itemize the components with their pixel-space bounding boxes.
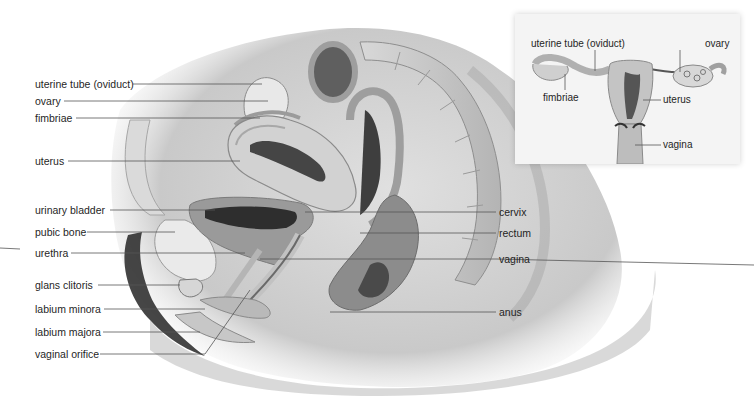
label-uterus: uterus xyxy=(35,155,64,167)
label-glans-clitoris: glans clitoris xyxy=(35,279,93,291)
label-vaginal-orifice: vaginal orifice xyxy=(35,348,99,360)
label-anus: anus xyxy=(499,306,522,318)
label-urinary-bladder: urinary bladder xyxy=(35,204,105,216)
label-pubic-bone: pubic bone xyxy=(35,226,86,238)
inset-label-ovary: ovary xyxy=(705,38,729,50)
label-rectum: rectum xyxy=(499,227,531,239)
label-ovary: ovary xyxy=(35,95,61,107)
label-uterine-tube: uterine tube (oviduct) xyxy=(35,78,134,90)
inset-label-vagina: vagina xyxy=(663,139,692,151)
label-cervix: cervix xyxy=(499,206,526,218)
inset-label-uterus: uterus xyxy=(663,94,691,106)
inset-label-fimbriae: fimbriae xyxy=(543,92,579,104)
label-labium-minora: labium minora xyxy=(35,303,101,315)
label-vagina: vagina xyxy=(499,253,530,265)
label-urethra: urethra xyxy=(35,247,68,259)
inset-illustration xyxy=(515,14,740,164)
inset-label-uterine-tube: uterine tube (oviduct) xyxy=(531,38,625,50)
inset-frontal-view: uterine tube (oviduct) ovary fimbriae ut… xyxy=(515,14,740,164)
label-fimbriae: fimbriae xyxy=(35,112,72,124)
label-labium-majora: labium majora xyxy=(35,326,101,338)
